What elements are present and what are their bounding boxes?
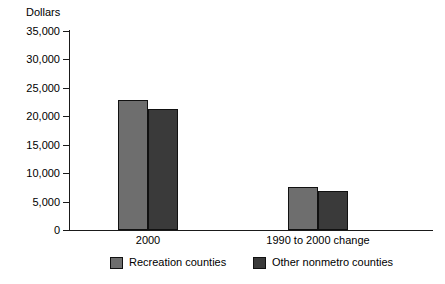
y-axis-tick-label: 20,000: [26, 111, 60, 122]
category-label: 1990 to 2000 change: [266, 234, 369, 247]
legend: Recreation countiesOther nonmetro counti…: [0, 256, 445, 274]
y-axis-tick: [63, 88, 69, 89]
x-axis-line: [69, 230, 433, 231]
legend-item: Recreation counties: [110, 256, 226, 269]
category-label: 2000: [136, 234, 160, 247]
y-axis-tick: [63, 230, 69, 231]
plot-area: 05,00010,00015,00020,00025,00030,00035,0…: [0, 0, 445, 284]
y-axis-line: [69, 30, 70, 231]
bar: [118, 100, 148, 230]
legend-label: Recreation counties: [129, 256, 226, 269]
bar: [318, 191, 348, 230]
y-axis-tick: [63, 173, 69, 174]
legend-swatch-icon: [110, 257, 123, 269]
bar-chart: Dollars 05,00010,00015,00020,00025,00030…: [0, 0, 445, 284]
legend-label: Other nonmetro counties: [272, 256, 393, 269]
legend-swatch-icon: [253, 257, 266, 269]
y-axis-tick-label: 0: [54, 225, 60, 236]
y-axis-tick: [63, 145, 69, 146]
y-axis-tick-label: 35,000: [26, 26, 60, 37]
y-axis-tick-label: 10,000: [26, 168, 60, 179]
y-axis-tick-label: 5,000: [32, 197, 60, 208]
y-axis-tick: [63, 116, 69, 117]
y-axis-tick: [63, 31, 69, 32]
y-axis-tick-label: 25,000: [26, 83, 60, 94]
legend-item: Other nonmetro counties: [253, 256, 393, 269]
y-axis-tick: [63, 202, 69, 203]
y-axis-tick-label: 15,000: [26, 140, 60, 151]
bar: [148, 109, 178, 230]
bar: [288, 187, 318, 230]
y-axis-tick-label: 30,000: [26, 54, 60, 65]
y-axis-tick: [63, 59, 69, 60]
